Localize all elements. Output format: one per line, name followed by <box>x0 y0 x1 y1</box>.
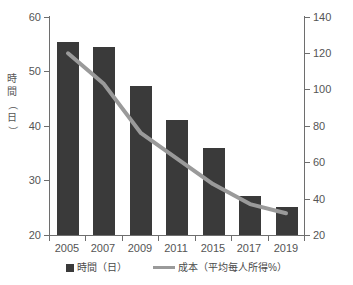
x-axis-label-2015: 2015 <box>193 243 233 254</box>
x-axis-label-2005: 2005 <box>47 243 87 254</box>
left-axis-tick-3 <box>44 71 49 72</box>
x-axis-label-2017: 2017 <box>229 243 269 254</box>
square-swatch-icon <box>66 264 74 272</box>
x-axis-label-2007: 2007 <box>83 243 123 254</box>
right-axis-tick-5 <box>305 53 310 54</box>
x-axis-tick-5 <box>231 236 232 241</box>
x-axis-tick-6 <box>268 236 269 241</box>
right-axis-tick-1 <box>305 199 310 200</box>
right-axis-label-3: 80 <box>313 121 347 132</box>
legend-item-cost[interactable]: 成本（平均每人所得%） <box>153 262 287 273</box>
cost-line-series <box>50 17 304 235</box>
x-axis-label-2009: 2009 <box>120 243 160 254</box>
right-axis-tick-6 <box>305 17 310 18</box>
chart-legend: 時間（日） 成本（平均每人所得%） <box>0 262 353 273</box>
right-axis-tick-0 <box>305 235 310 236</box>
line-swatch-icon <box>153 266 175 269</box>
left-axis-label-1: 30 <box>13 175 41 186</box>
x-axis-tick-4 <box>195 236 196 241</box>
right-axis-label-0: 20 <box>313 230 347 241</box>
legend-item-time[interactable]: 時間（日） <box>66 262 127 273</box>
x-axis-tick-7 <box>304 236 305 241</box>
right-axis-tick-3 <box>305 126 310 127</box>
plot-area <box>50 17 304 235</box>
right-axis-tick-2 <box>305 162 310 163</box>
left-axis-label-0: 20 <box>13 230 41 241</box>
left-axis-tick-1 <box>44 180 49 181</box>
bottom-axis-spine <box>49 235 305 236</box>
right-axis-label-2: 60 <box>313 157 347 168</box>
x-axis-tick-2 <box>122 236 123 241</box>
x-axis-label-2019: 2019 <box>266 243 306 254</box>
x-axis-tick-0 <box>49 236 50 241</box>
left-axis-label-4: 60 <box>13 12 41 23</box>
y-axis-title-char-2: （ <box>6 97 19 113</box>
right-axis-label-5: 120 <box>313 48 347 59</box>
right-axis-tick-4 <box>305 89 310 90</box>
left-axis-label-3: 50 <box>13 66 41 77</box>
x-axis-tick-1 <box>85 236 86 241</box>
right-axis-label-4: 100 <box>313 84 347 95</box>
left-axis-tick-2 <box>44 126 49 127</box>
legend-label-time: 時間（日） <box>77 262 127 273</box>
legend-label-cost: 成本（平均每人所得%） <box>178 262 287 273</box>
right-axis-label-1: 40 <box>313 194 347 205</box>
right-axis-label-6: 140 <box>313 12 347 23</box>
x-axis-tick-3 <box>158 236 159 241</box>
chart-container: 時 間 （ 日 ） 20 30 40 50 60 20 40 60 80 100… <box>0 0 353 285</box>
left-axis-tick-4 <box>44 17 49 18</box>
x-axis-label-2011: 2011 <box>156 243 196 254</box>
left-axis-label-2: 40 <box>13 121 41 132</box>
